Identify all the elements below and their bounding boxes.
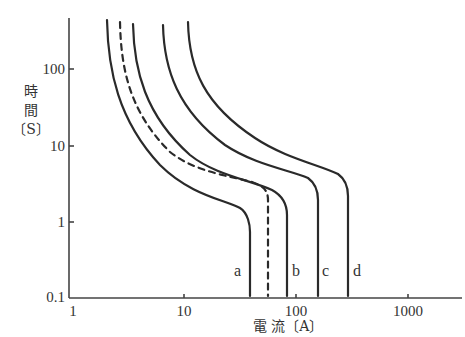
x-tick-label-1000: 1000 [393,303,423,319]
curve-label-c: c [322,262,329,279]
curve-label-a: a [234,262,241,279]
x-axis-title: 電 流〔A〕 [253,318,324,334]
y-axis-title-char2: 間 [24,102,38,118]
x-tick-label-10: 10 [177,303,192,319]
curve-c [163,25,318,296]
y-tick-label-100: 100 [43,61,66,77]
y-axis-title-unit: 〔S〕 [12,121,50,137]
y-tick-label-10: 10 [50,138,65,154]
time-current-chart: 100 10 1 0.1 1 10 100 1000 時 間 〔S〕 電 流〔A… [0,0,465,337]
y-tick-label-1: 1 [58,214,66,230]
curve-label-b: b [292,262,300,279]
axes [69,18,462,298]
y-tick-label-0.1: 0.1 [46,289,65,305]
x-tick-label-1: 1 [69,303,77,319]
x-tick-label-100: 100 [285,303,308,319]
curve-label-d: d [353,262,361,279]
y-axis-title-char1: 時 [24,83,38,99]
